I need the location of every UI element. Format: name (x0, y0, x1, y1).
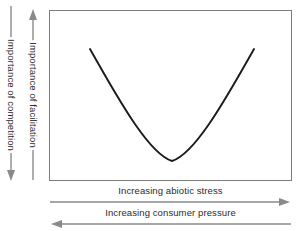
left-arrow-icon (49, 217, 292, 229)
stress-gradient-hypothesis-figure: Importance of competition Importance of … (0, 0, 303, 231)
y-axis-importance-of-facilitation: Importance of facilitation (22, 0, 44, 190)
x-axis-increasing-abiotic-stress: Increasing abiotic stress (49, 185, 292, 207)
y-axis-importance-of-competition: Importance of competition (0, 0, 22, 190)
y-axis-label-competition: Importance of competition (6, 37, 17, 153)
x-axis-increasing-consumer-pressure: Increasing consumer pressure (49, 207, 292, 229)
plot-area (49, 10, 292, 181)
u-curve (50, 11, 293, 182)
y-axis-label-facilitation: Importance of facilitation (28, 40, 39, 150)
right-arrow-icon (49, 195, 292, 207)
